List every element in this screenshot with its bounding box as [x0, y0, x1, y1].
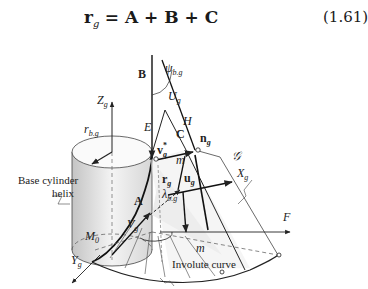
involute-helicoid-diagram: B ψb.g Ug Zg E H C ng rb.g v*g m 𝒢 Xg rg… [0, 0, 368, 289]
label-A: A [134, 194, 143, 208]
label-H: H [182, 114, 193, 128]
label-script-g: 𝒢 [232, 149, 243, 163]
label-v: v*g [157, 141, 167, 159]
label-B: B [138, 67, 146, 81]
caption-base-cylinder: Base cylinder [18, 174, 79, 186]
label-m-bottom: m [196, 241, 205, 255]
caption-helix: helix [52, 187, 74, 199]
label-X: Xg [236, 166, 248, 182]
caption-involute-curve: Involute curve [172, 258, 236, 270]
label-E: E [143, 120, 152, 134]
label-Z: Zg [97, 93, 108, 109]
label-C: C [176, 127, 185, 141]
label-n: ng [200, 131, 211, 147]
label-U: Ug [168, 89, 181, 105]
label-m-top: m [176, 153, 185, 167]
label-F: F [282, 210, 291, 224]
label-rb: rb.g [84, 122, 99, 138]
label-psi: ψb.g [165, 61, 182, 77]
